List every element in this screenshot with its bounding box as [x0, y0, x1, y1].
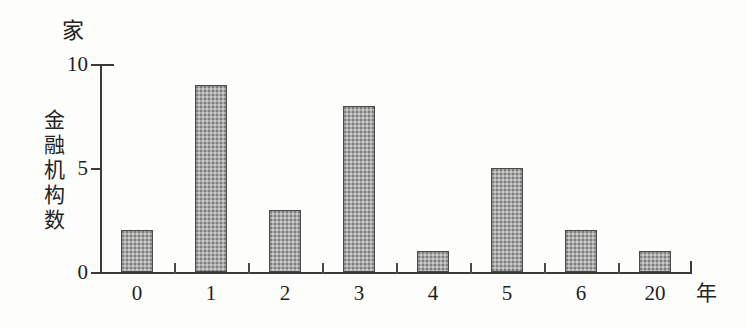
y-axis-top-cap — [100, 64, 114, 66]
x-axis-tick-label: 20 — [645, 282, 666, 304]
y-axis-unit-label: 家 — [62, 18, 85, 44]
bar — [195, 85, 226, 272]
y-axis-tick — [91, 272, 102, 274]
x-axis-tick — [544, 263, 546, 274]
x-axis-tick — [248, 263, 250, 274]
x-axis-tick — [618, 263, 620, 274]
y-axis-tick — [91, 168, 102, 170]
y-axis-tick-label: 5 — [42, 158, 88, 179]
y-axis-tick-label: 10 — [42, 54, 88, 75]
x-axis-tick-label: 5 — [502, 282, 513, 304]
x-axis-tick-label: 4 — [428, 282, 439, 304]
y-axis-tick — [91, 64, 102, 66]
x-axis-tick-label: 2 — [280, 282, 291, 304]
x-axis-tick-label: 1 — [206, 282, 217, 304]
y-axis-title-char: 数 — [40, 208, 68, 233]
bar — [269, 210, 300, 272]
bar — [639, 251, 670, 272]
plot-area — [100, 60, 692, 274]
bar — [417, 251, 448, 272]
x-axis-tick-label: 3 — [354, 282, 365, 304]
y-axis-tick-label: 0 — [42, 262, 88, 283]
bar — [343, 106, 374, 272]
x-axis-unit-label: 年 — [696, 281, 717, 305]
y-axis-title-char: 构 — [40, 183, 68, 208]
x-axis-end-cap — [690, 261, 692, 274]
bar — [121, 230, 152, 272]
x-axis-tick — [470, 263, 472, 274]
x-axis-tick-label: 0 — [132, 282, 143, 304]
x-axis-tick — [322, 263, 324, 274]
y-axis-title-char: 融 — [40, 133, 68, 158]
bar-chart: 家 金 融 机 构 数 0510 012345620 年 — [0, 0, 747, 328]
x-axis-tick — [396, 263, 398, 274]
x-axis-tick-label: 6 — [576, 282, 587, 304]
x-axis-tick — [174, 263, 176, 274]
bar — [491, 168, 522, 272]
bar — [565, 230, 596, 272]
y-axis-title-char: 金 — [40, 108, 68, 133]
